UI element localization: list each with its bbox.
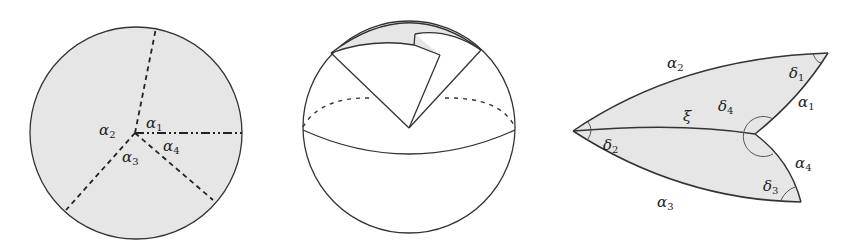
label-alpha1: α1 xyxy=(798,93,815,112)
label-alpha2: α2 xyxy=(667,54,684,73)
lens-panel: α2 α1 α4 α3 δ1 δ2 δ3 δ4 ξ xyxy=(573,53,828,212)
label-xi: ξ xyxy=(683,107,692,125)
label-alpha3: α3 xyxy=(657,193,674,212)
sphere-panel xyxy=(303,21,515,233)
label-alpha4: α4 xyxy=(795,154,812,173)
figure-canvas: α1 α2 α3 α4 xyxy=(0,0,849,244)
disk-panel: α1 α2 α3 α4 xyxy=(30,27,242,239)
